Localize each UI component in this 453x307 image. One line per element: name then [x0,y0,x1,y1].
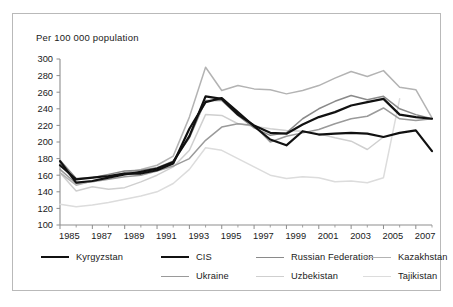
x-axis-tick-label: 1991 [156,231,177,241]
series-line [60,96,432,179]
legend-item-label: Tajikistan [398,271,437,281]
y-axis-tick-label: 120 [37,204,53,214]
x-axis-tick-label: 1993 [188,231,209,241]
y-axis-tick-label: 300 [37,54,53,64]
legend-line-swatch [363,276,391,277]
legend-line-swatch [256,276,284,277]
series-line [60,96,432,182]
legend-item-label: Uzbekistan [291,271,338,281]
y-axis-tick-label: 220 [37,121,53,131]
x-axis-tick-label: 1987 [91,231,112,241]
x-axis-tick-label: 1995 [221,231,242,241]
legend-line-swatch [256,257,284,258]
series-line [60,99,400,207]
legend-row-1: KyrgyzstanCISRussian FederationKazakhsta… [13,247,442,267]
x-axis-tick-label: 2001 [318,231,339,241]
chart-figure: Per 100 000 population 10012014016018020… [12,13,441,291]
y-axis-tick-label: 100 [37,220,53,230]
x-axis-tick-label: 2005 [382,231,403,241]
legend-line-swatch [363,257,391,258]
legend-item[interactable]: Kyrgyzstan [41,247,123,267]
legend-item[interactable]: Tajikistan [363,266,437,286]
x-axis-tick-label: 1997 [253,231,274,241]
legend-item[interactable]: CIS [161,247,212,267]
legend-item[interactable]: Russian Federation [256,247,373,267]
y-axis-tick-label: 280 [37,71,53,81]
x-axis-tick-label: 1999 [285,231,306,241]
legend-item-label: Ukraine [196,271,229,281]
legend-item[interactable]: Ukraine [161,266,229,286]
legend-line-swatch [161,276,189,277]
legend-item-label: Kyrgyzstan [76,252,123,262]
legend-item-label: Russian Federation [291,252,373,262]
x-axis-tick-label: 1985 [59,231,80,241]
y-axis-tick-label: 160 [37,171,53,181]
y-axis-tick-label: 180 [37,154,53,164]
legend-line-swatch [161,256,189,258]
legend-item[interactable]: Kazakhstan [363,247,448,267]
legend-row-2: UkraineUzbekistanTajikistan [13,266,442,286]
series-line [60,67,432,185]
legend-line-swatch [41,256,69,258]
y-axis-tick-label: 260 [37,88,53,98]
legend-item[interactable]: Uzbekistan [256,266,338,286]
x-axis-tick-label: 2007 [415,231,436,241]
x-axis-tick-label: 1989 [124,231,145,241]
series-line [60,98,432,179]
legend-item-label: Kazakhstan [398,252,448,262]
y-axis-tick-label: 140 [37,187,53,197]
legend-item-label: CIS [196,252,212,262]
x-axis-tick-label: 2003 [350,231,371,241]
y-axis-tick-label: 240 [37,104,53,114]
y-axis-tick-label: 200 [37,137,53,147]
chart-legend: KyrgyzstanCISRussian FederationKazakhsta… [13,247,442,291]
